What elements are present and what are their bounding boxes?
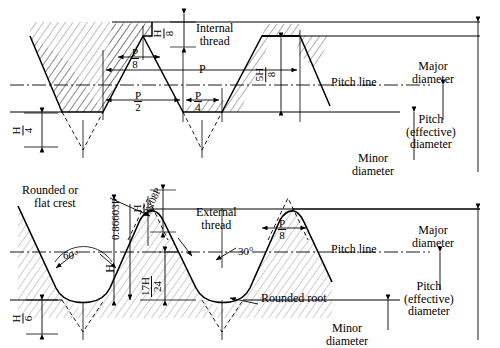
- p8-top-denominator: 8: [131, 58, 139, 70]
- p8-bot-denominator: 8: [278, 229, 286, 241]
- p2-denominator: 2: [134, 101, 142, 113]
- thread-profile-diagram: Internal thread P P 8 P 2 P 4 H 8 5H 8 H…: [0, 0, 500, 348]
- root-extension-1: [62, 112, 103, 150]
- dim-label-P-over-8-top: P 8: [131, 47, 139, 70]
- dim-label-H: H: [104, 264, 117, 273]
- minor-diameter-bot-line2: diameter: [326, 334, 368, 348]
- p8-bot-numerator: P: [278, 218, 286, 229]
- h6-denominator: 6: [22, 314, 34, 324]
- h6-numerator: H: [11, 314, 22, 324]
- h1724-numerator: 17H: [140, 276, 151, 297]
- h58-numerator: 5H: [254, 67, 265, 82]
- rounded-crest-line1: Rounded or: [22, 183, 78, 197]
- minor-diameter-label-bottom: Minor diameter: [326, 322, 368, 347]
- h8-top-denominator: 8: [163, 29, 175, 39]
- leader-root-radius: [178, 238, 192, 256]
- dim-label-H-over-6: H 6: [11, 314, 34, 324]
- h8-top-numerator: H: [152, 29, 163, 39]
- rounded-root-label: Rounded root: [261, 292, 327, 305]
- angle-30-label: 30°: [238, 246, 253, 258]
- pitch-line-label-bottom: Pitch line: [331, 243, 377, 256]
- dim-label-P-over-4: P 4: [194, 90, 202, 113]
- root-extension-2: [183, 112, 222, 150]
- dim-label-086603P: 0.86603P: [110, 198, 122, 240]
- angle-60-label: 60°: [63, 250, 78, 262]
- h8-bot-numerator: H: [132, 204, 143, 214]
- internal-thread-label: Internal thread: [196, 22, 233, 47]
- pitch-eff-top-line3: diameter: [410, 137, 452, 151]
- minor-diameter-label-top: Minor diameter: [352, 152, 394, 177]
- pitch-eff-bot-line3: diameter: [408, 304, 450, 318]
- p2-numerator: P: [134, 90, 142, 101]
- h4-denominator: 4: [22, 126, 34, 136]
- leader-angle-30: [216, 248, 236, 260]
- external-thread-line2: thread: [201, 218, 231, 232]
- major-diameter-label-bottom: Major diameter: [412, 224, 454, 249]
- h8-bot-denominator: 8: [143, 204, 155, 214]
- major-diameter-label-top: Major diameter: [412, 60, 454, 85]
- rounded-flat-crest-label: Rounded or flat crest: [22, 184, 78, 211]
- major-diameter-bot-line2: diameter: [412, 236, 454, 250]
- h58-denominator: 8: [265, 67, 277, 82]
- dim-label-5H-over-8: 5H 8: [254, 67, 277, 82]
- major-diameter-top-line2: diameter: [412, 72, 454, 86]
- p4-numerator: P: [194, 90, 202, 101]
- p4-denominator: 4: [194, 101, 202, 113]
- dim-label-H-over-8-top: H 8: [152, 29, 175, 39]
- p8-top-numerator: P: [131, 47, 139, 58]
- dim-label-P: P: [199, 63, 206, 76]
- pitch-line-label-top: Pitch line: [331, 76, 377, 89]
- pitch-diameter-label-bottom: Pitch (effective) diameter: [404, 280, 454, 318]
- h4-numerator: H: [11, 126, 22, 136]
- external-thread-label: External thread: [196, 206, 237, 231]
- dim-label-P-over-8-bottom: P 8: [278, 218, 286, 241]
- internal-thread-line2: thread: [200, 34, 230, 48]
- dim-label-H-over-4: H 4: [11, 126, 34, 136]
- dim-label-P-over-2: P 2: [134, 90, 142, 113]
- minor-diameter-top-line2: diameter: [352, 164, 394, 178]
- dim-label-H-over-8-bottom: H 8: [132, 204, 155, 214]
- h1724-denominator: 24: [151, 276, 163, 297]
- dim-label-17H-over-24: 17H 24: [140, 276, 163, 297]
- pitch-diameter-label-top: Pitch (effective) diameter: [406, 113, 456, 151]
- rounded-crest-line2: flat crest: [34, 197, 76, 210]
